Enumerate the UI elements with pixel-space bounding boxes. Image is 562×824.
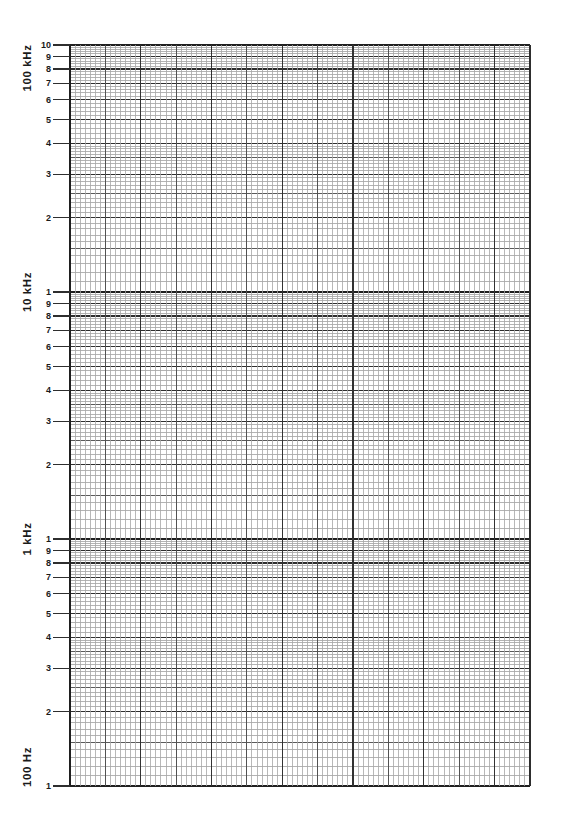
y-tick-label: 9 [46,546,51,556]
y-tick-label: 3 [46,416,51,426]
y-axis-decade-labels: 100 kHz 10 kHz 1 kHz 100 Hz [21,44,33,787]
y-tick-label: 4 [46,385,51,395]
y-axis-tick-labels: 10987654321987654321987654321 [41,40,51,791]
grid-vertical-lines [70,45,530,786]
y-tick-label: 6 [46,95,51,105]
y-tick-label: 9 [46,52,51,62]
y-tick-label: 10 [41,40,51,50]
decade-label-10khz: 10 kHz [21,272,33,312]
y-tick-label: 7 [46,572,51,582]
y-tick-label: 8 [46,311,51,321]
decade-label-100khz: 100 kHz [21,44,33,91]
y-tick-label: 5 [46,115,51,125]
y-tick-label: 7 [46,78,51,88]
y-tick-label: 9 [46,299,51,309]
y-tick-label: 1 [46,781,51,791]
decade-label-1khz: 1 kHz [21,522,33,555]
y-tick-label: 5 [46,362,51,372]
grid-horizontal-lines [70,45,530,786]
y-tick-label: 6 [46,342,51,352]
y-tick-label: 1 [46,534,51,544]
y-tick-label: 2 [46,707,51,717]
graph-paper-page: 10987654321987654321987654321 100 kHz 10… [0,0,562,824]
y-tick-label: 7 [46,325,51,335]
y-tick-label: 3 [46,169,51,179]
y-tick-label: 4 [46,138,51,148]
y-tick-label: 8 [46,558,51,568]
y-axis-tick-lines [53,45,70,786]
y-tick-label: 1 [46,287,51,297]
y-tick-label: 2 [46,213,51,223]
y-tick-label: 4 [46,632,51,642]
graph-paper: 10987654321987654321987654321 100 kHz 10… [0,0,562,824]
y-tick-label: 6 [46,589,51,599]
y-tick-label: 3 [46,663,51,673]
y-tick-label: 8 [46,64,51,74]
y-tick-label: 5 [46,609,51,619]
decade-label-100hz: 100 Hz [21,747,33,787]
y-tick-label: 2 [46,460,51,470]
